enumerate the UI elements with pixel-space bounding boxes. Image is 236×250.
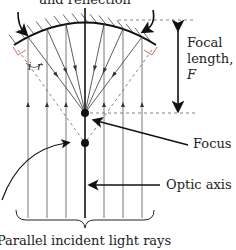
hatch-mark	[72, 14, 79, 23]
focal-length-symbol: F	[186, 67, 197, 82]
hatch-mark	[45, 18, 52, 27]
hatch-mark	[9, 35, 16, 44]
focus-pointer-arrow	[97, 121, 188, 145]
top-caption: and reflection	[39, 0, 131, 7]
hatch-mark	[27, 25, 34, 34]
parallel-rays-label: Parallel incident light rays	[0, 233, 171, 248]
mirror-hatching	[9, 14, 151, 44]
reflected-ray-arrowhead	[63, 67, 67, 73]
reflected-ray-arrowhead	[103, 67, 107, 73]
hatch-mark	[54, 16, 61, 25]
reflected-ray-arrowhead	[112, 71, 117, 77]
reflected-ray-arrowhead	[53, 71, 58, 77]
incident-ray-arrowhead	[45, 102, 49, 107]
focal-length-label-line1: Focal	[187, 35, 222, 50]
incident-ray-arrowhead	[102, 102, 106, 107]
incident-ray-arrowhead	[64, 102, 68, 107]
focal-length-label-line2: length,	[187, 51, 233, 66]
optic-axis-label: Optic axis	[166, 177, 232, 192]
left-mirror-pointer-arrow	[18, 12, 24, 32]
concave-mirror-diagram: and reflection i r Focal length, F Focus…	[0, 0, 236, 250]
incident-ray-arrowhead	[26, 102, 30, 107]
center-of-curvature-point	[81, 139, 89, 147]
focus-label: Focus	[193, 136, 231, 151]
hatch-mark	[36, 21, 43, 30]
right-angle-marker-left	[13, 47, 26, 55]
hatch-mark	[63, 15, 70, 24]
incident-ray-arrowhead	[121, 102, 125, 107]
right-angle-marker-right	[144, 47, 157, 55]
incident-ray-arrowhead	[140, 102, 144, 107]
focus-point	[81, 109, 89, 117]
parallel-rays-pointer-arrow	[2, 143, 66, 200]
